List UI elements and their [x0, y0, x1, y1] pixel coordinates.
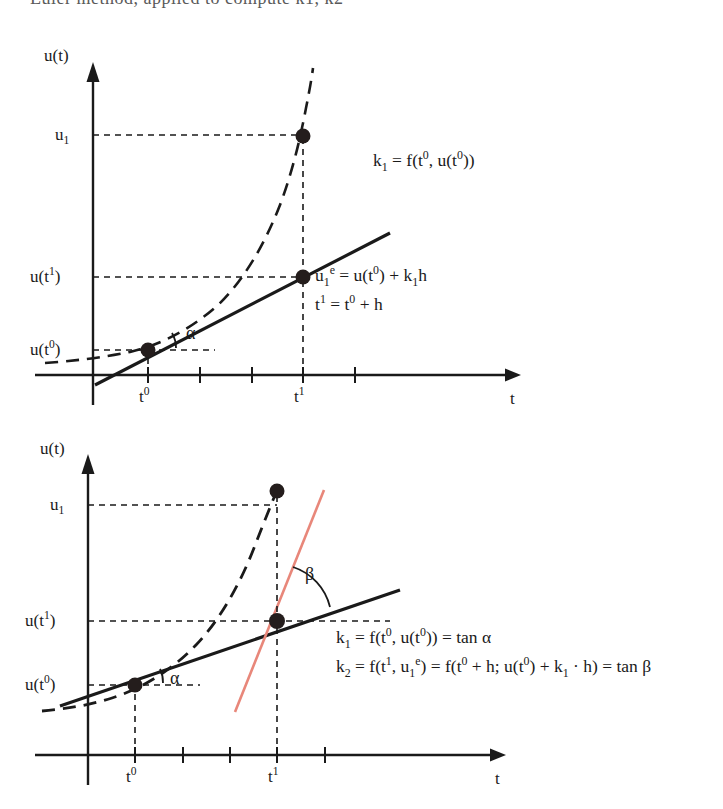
- figure2-formula-k1: k1 = f(t0, u(t0)) = tan α: [336, 629, 491, 647]
- figure2-xtick-t1: t1: [268, 768, 279, 785]
- x-axis-arrowhead: [505, 369, 521, 382]
- clipped-caption-text: Euler method, applied to compute k1, k2: [30, 0, 343, 9]
- figure1-xtick-t1: t1: [294, 388, 305, 405]
- figure2-ytick-u1: u1: [50, 496, 64, 513]
- figure2-x-axis-label: t: [495, 770, 500, 787]
- figure1-xtick-t0: t0: [139, 388, 150, 405]
- exact-solution-curve: [42, 488, 278, 711]
- figure1-alpha-label: α: [186, 324, 195, 342]
- figure1-x-axis-label: t: [510, 390, 515, 407]
- figure1-formula-k1: k1 = f(t0, u(t0)): [373, 152, 475, 170]
- point-exact-u1: [270, 484, 285, 499]
- figure1-ytick-ut1: u(t1): [30, 268, 60, 285]
- diagram-page: Euler method, applied to compute k1, k2: [0, 0, 723, 809]
- point-euler-ue1: [296, 270, 311, 285]
- figure2-ytick-ut1: u(t1): [25, 612, 55, 629]
- figure2-alpha-label: α: [170, 669, 179, 687]
- point-euler-ue1: [269, 613, 285, 629]
- x-axis-arrowhead: [490, 749, 506, 762]
- figure1-ytick-ut0: u(t0): [30, 341, 60, 358]
- figure1-ytick-u1: u1: [55, 126, 69, 143]
- y-axis-arrowhead: [87, 62, 100, 82]
- figure2-ytick-ut0: u(t0): [25, 676, 55, 693]
- figure1-formula-ue1: u1e = u(t0) + k1h: [315, 267, 427, 285]
- figure1-formula-t1: t1 = t0 + h: [315, 296, 383, 314]
- figure2-y-axis-label: u(t): [40, 440, 65, 457]
- figure1-y-axis-label: u(t): [44, 47, 69, 64]
- figure2-canvas: [0, 410, 723, 809]
- figure-euler-step: u(t) t u1 u(t1) u(t0) t0 t1 α k1 = f(t0,…: [0, 30, 723, 410]
- figure2-beta-label: β: [305, 565, 314, 583]
- figure1-canvas: [0, 30, 723, 410]
- figure-heun-slopes: u(t) t u1 u(t1) u(t0) t0 t1 α β k1 = f(t…: [0, 410, 723, 809]
- figure2-xtick-t0: t0: [126, 768, 137, 785]
- exact-solution-curve: [45, 68, 313, 363]
- y-axis-arrowhead: [82, 454, 95, 474]
- point-start-ut0: [128, 678, 143, 693]
- clipped-caption-strip: Euler method, applied to compute k1, k2: [0, 0, 723, 12]
- point-exact-u1: [296, 129, 311, 144]
- figure2-formula-k2: k2 = f(t1, u1e) = f(t0 + h; u(t0) + k1 ·…: [336, 658, 651, 676]
- point-start-ut0: [141, 343, 156, 358]
- slope-line-k2: [235, 490, 324, 712]
